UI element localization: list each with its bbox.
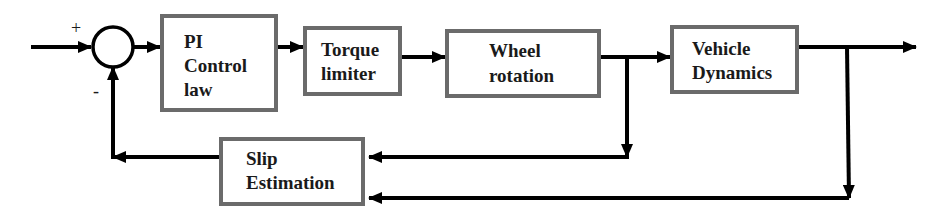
- summing-junction-circle: [93, 27, 133, 67]
- control-block-diagram: + - PI Control law Torque limiter Wheel …: [0, 0, 943, 217]
- vehicle-dynamics-block: Vehicle Dynamics: [670, 25, 799, 94]
- plus-sign: +: [71, 18, 81, 39]
- pi-label-line1: PI: [184, 30, 203, 54]
- pi-label-line2: Control: [184, 54, 247, 78]
- torque-limiter-block: Torque limiter: [303, 26, 402, 96]
- slip-label-line1: Slip: [246, 147, 278, 171]
- torque-label-line2: limiter: [321, 62, 376, 86]
- torque-label-line1: Torque: [321, 38, 379, 62]
- vehicle-label-line1: Vehicle: [692, 37, 750, 61]
- slip-label-line2: Estimation: [246, 171, 335, 195]
- slip-estimation-block: Slip Estimation: [219, 137, 365, 206]
- vehicle-label-line2: Dynamics: [692, 61, 772, 85]
- wheel-rotation-block: Wheel rotation: [445, 29, 601, 98]
- pi-control-block: PI Control law: [160, 14, 278, 112]
- wheel-label-line1: Wheel: [489, 39, 541, 63]
- wheel-label-line2: rotation: [489, 64, 554, 88]
- minus-sign: -: [93, 81, 99, 102]
- pi-label-line3: law: [184, 78, 213, 102]
